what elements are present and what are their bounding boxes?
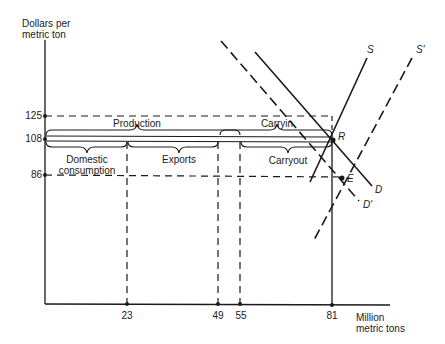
label-domestic-line1: Domestic — [52, 154, 122, 165]
point-label-e: E — [347, 173, 354, 184]
point-r — [331, 138, 336, 143]
point-e — [340, 176, 345, 181]
tick-81 — [330, 303, 334, 307]
price-line-108-bottom — [45, 141, 332, 142]
tick-108 — [43, 137, 47, 141]
tick-86 — [43, 173, 47, 177]
tick-125 — [43, 114, 47, 118]
y-tick-label-108: 108 — [14, 133, 42, 144]
curve-label-s-prime: S′ — [416, 44, 425, 55]
x-tick-label-55: 55 — [229, 310, 253, 321]
brace-domestic — [46, 142, 127, 153]
curve-label-d-prime: D′ — [363, 199, 372, 210]
x-tick-label-23: 23 — [115, 310, 139, 321]
x-axis-label-line1: Million — [356, 312, 384, 323]
y-tick-label-86: 86 — [14, 169, 42, 180]
y-tick-label-125: 125 — [14, 110, 42, 121]
curve-label-s: S — [367, 44, 374, 55]
curve-label-d: D — [375, 184, 382, 195]
label-carryin: Carryin — [252, 118, 302, 129]
price-line-108-top — [45, 136, 332, 137]
x-tick-label-81: 81 — [320, 310, 344, 321]
point-label-r: R — [338, 131, 345, 142]
supply-curve-s-prime — [314, 58, 412, 240]
tick-49 — [216, 302, 220, 306]
brace-carryout — [241, 142, 332, 153]
label-production: Production — [107, 118, 167, 129]
label-exports: Exports — [149, 154, 209, 165]
x-tick-label-49: 49 — [206, 310, 230, 321]
y-axis-label-line2: metric ton — [22, 29, 66, 40]
supply-curve-s — [310, 58, 367, 182]
label-carryout: Carryout — [258, 155, 318, 166]
y-axis-label-line1: Dollars per — [22, 18, 70, 29]
tick-23 — [125, 302, 129, 306]
x-axis-label-line2: metric tons — [356, 323, 405, 334]
tick-55 — [238, 302, 242, 306]
brace-exports — [128, 142, 218, 153]
label-domestic-line2: consumption — [52, 165, 122, 176]
